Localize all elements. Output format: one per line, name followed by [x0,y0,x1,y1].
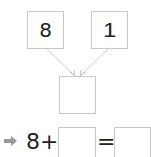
sum-box[interactable] [59,76,96,114]
equation-first-term: 8 [26,127,40,157]
right-arrow-icon [4,135,18,147]
equation-plus-sign: + [40,127,58,157]
equation-blank-sum[interactable] [114,127,151,157]
equation-blank-addend[interactable] [58,127,96,157]
right-connector-line [80,49,108,76]
equation-equals-sign: = [97,127,115,157]
left-connector-line [47,49,75,76]
